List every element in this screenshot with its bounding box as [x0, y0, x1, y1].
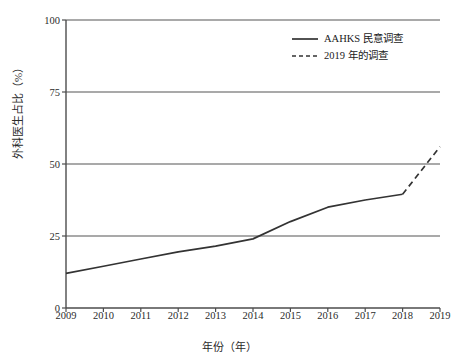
legend-item-1: AAHKS 民意调查: [292, 30, 403, 47]
x-axis-title: 年份（年）: [0, 338, 458, 354]
x-tick-label-2019: 2019: [418, 310, 458, 321]
series-line-1: [66, 194, 403, 273]
solid-line-icon: [292, 34, 318, 44]
chart-legend: AAHKS 民意调查2019 年的调查: [292, 30, 403, 64]
series-line-2: [403, 147, 440, 195]
x-axis-tick-labels: 2009201020112012201320142015201620172018…: [0, 310, 458, 330]
legend-item-2: 2019 年的调查: [292, 47, 403, 64]
dashed-line-icon: [292, 51, 318, 61]
legend-label-1: AAHKS 民意调查: [324, 32, 403, 45]
data-series: [66, 147, 440, 274]
line-chart-figure: 外科医生占比（%） 0255075100 2009201020112012201…: [0, 0, 458, 362]
legend-label-2: 2019 年的调查: [324, 49, 388, 62]
